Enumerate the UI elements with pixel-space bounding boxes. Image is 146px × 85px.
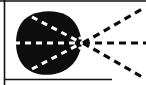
schematic-diagram xyxy=(0,0,146,85)
apex-notch-lower xyxy=(78,46,81,49)
figure-container xyxy=(0,0,146,85)
apex-notch-upper xyxy=(78,36,81,39)
